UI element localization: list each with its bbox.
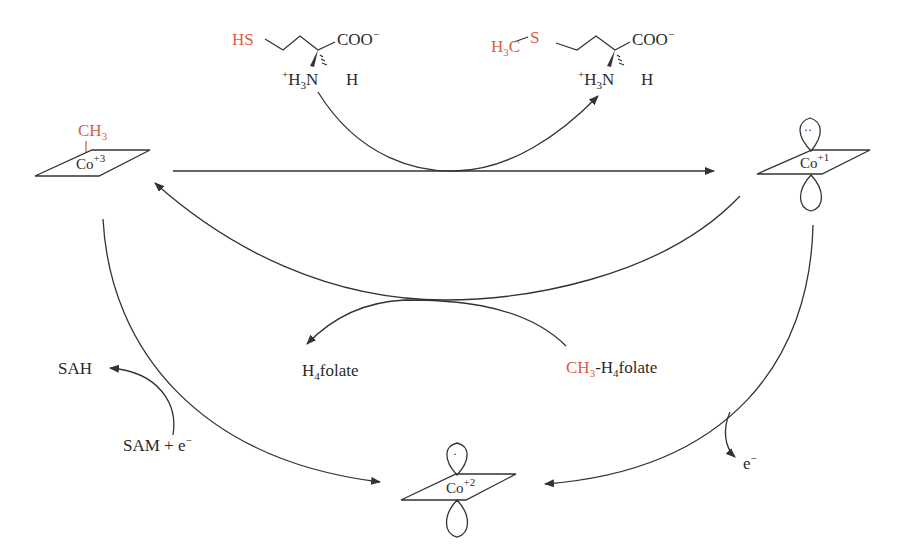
methylcobalamin-cobalt: Co+3 (76, 157, 105, 172)
arrow-ch3h4folate-to-h4folate (307, 300, 566, 346)
arrow-co1-to-co3 (155, 183, 740, 300)
arrow-co1-to-co2 (545, 225, 813, 484)
methionine-alpha-h: H (641, 71, 653, 88)
sah-label: SAH (58, 360, 92, 377)
h4folate-label: H4folate (302, 362, 358, 379)
homocysteine-alpha-h: H (346, 71, 358, 88)
methionine-methyl: H3C (491, 38, 520, 55)
sam-label: SAM + e− (123, 437, 192, 454)
methionine-carboxylate: COO− (632, 31, 674, 48)
cob-I-lone-pair: ·· (804, 124, 812, 136)
cob-I-cobalt: Co+1 (800, 156, 829, 171)
cob-II-radical: · (453, 448, 457, 460)
cob-II-cobalt: Co+2 (446, 481, 475, 496)
arrow-homocysteine-to-methionine (318, 92, 598, 171)
arrow-electron-release (725, 412, 735, 457)
ch3-h4folate-label: CH3-H4folate (566, 359, 657, 376)
homocysteine-carboxylate: COO− (337, 31, 379, 48)
homocysteine-amine: +H3N (282, 71, 318, 88)
methionine-amine: +H3N (578, 71, 614, 88)
methionine-sulfur: S (530, 29, 539, 46)
methylcobalamin-methyl: CH3 (78, 122, 107, 139)
cycle-arrows (0, 0, 900, 559)
homocysteine-bonds (265, 36, 335, 67)
electron-label: e− (743, 455, 757, 472)
homocysteine-thiol: HS (232, 31, 254, 48)
